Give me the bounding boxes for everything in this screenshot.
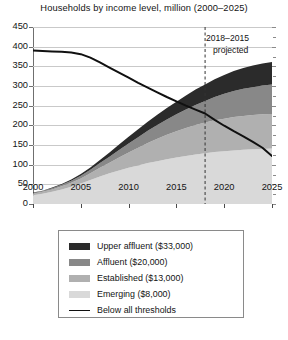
- y-tick-label: 300: [0, 80, 28, 90]
- x-tick-label: 2025: [255, 182, 288, 192]
- x-tick: [224, 204, 225, 208]
- y-tick-right: [272, 27, 276, 28]
- y-tick-right: [272, 47, 276, 48]
- y-tick-label: 0: [0, 198, 28, 208]
- x-tick: [129, 204, 130, 208]
- y-tick-right-minor: [273, 116, 276, 117]
- y-tick-label: 150: [0, 139, 28, 149]
- legend-item[interactable]: Affluent ($20,000): [69, 255, 167, 269]
- legend-line-swatch: [69, 310, 90, 311]
- x-tick: [272, 204, 273, 208]
- y-tick-right: [272, 86, 276, 87]
- y-tick-right-minor: [273, 135, 276, 136]
- y-tick-right-minor: [273, 57, 276, 58]
- x-tick-label: 2015: [159, 182, 193, 192]
- y-tick-right: [272, 165, 276, 166]
- chart-figure: Households by income level, million (200…: [0, 0, 288, 340]
- y-tick-right-minor: [273, 96, 276, 97]
- legend-color-swatch: [69, 243, 90, 250]
- projection-label-line2: projected: [213, 45, 248, 55]
- y-tick-label: 100: [0, 159, 28, 169]
- y-tick-right: [272, 106, 276, 107]
- legend-item[interactable]: Emerging ($8,000): [69, 287, 171, 301]
- legend-color-swatch: [69, 259, 90, 266]
- y-tick-right-minor: [273, 175, 276, 176]
- y-tick-right-minor: [273, 37, 276, 38]
- legend-color-swatch: [69, 275, 90, 282]
- y-tick-right: [272, 125, 276, 126]
- x-tick-label: 2005: [64, 182, 98, 192]
- y-tick-right: [272, 145, 276, 146]
- y-tick-right: [272, 66, 276, 67]
- legend-item-label: Upper affluent ($33,000): [97, 241, 193, 251]
- chart-title: Households by income level, million (200…: [0, 3, 288, 13]
- y-tick-label: 450: [0, 21, 28, 31]
- legend-item[interactable]: Upper affluent ($33,000): [69, 239, 193, 253]
- legend-item-label: Emerging ($8,000): [97, 289, 171, 299]
- y-tick-label: 250: [0, 100, 28, 110]
- legend-item[interactable]: Below all thresholds: [69, 303, 176, 317]
- y-tick-right-minor: [273, 194, 276, 195]
- y-tick-label: 400: [0, 41, 28, 51]
- x-tick-label: 2010: [112, 182, 146, 192]
- x-tick: [81, 204, 82, 208]
- legend-item-label: Affluent ($20,000): [97, 257, 167, 267]
- y-tick-right-minor: [273, 76, 276, 77]
- x-tick: [176, 204, 177, 208]
- y-tick-label: 350: [0, 60, 28, 70]
- chart-legend: Upper affluent ($33,000)Affluent ($20,00…: [58, 230, 244, 318]
- x-tick-label: 2000: [16, 182, 50, 192]
- x-tick-label: 2020: [207, 182, 241, 192]
- legend-color-swatch: [69, 291, 90, 298]
- legend-item-label: Established ($13,000): [97, 273, 183, 283]
- legend-item[interactable]: Established ($13,000): [69, 271, 183, 285]
- y-tick-right-minor: [273, 155, 276, 156]
- x-tick: [33, 204, 34, 208]
- y-tick-label: 200: [0, 119, 28, 129]
- legend-item-label: Below all thresholds: [97, 305, 176, 315]
- projection-label-line1: 2018–2015: [206, 33, 249, 43]
